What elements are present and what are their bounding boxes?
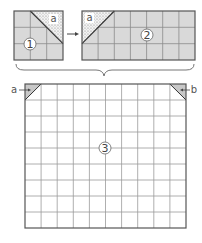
piece-2-label-a: a — [86, 12, 92, 23]
piece-3: a b 3 — [11, 84, 197, 228]
corner-label-a: a — [11, 84, 17, 95]
curly-brace — [16, 64, 194, 76]
piece-1-label-a: a — [50, 13, 56, 24]
piece-1-number: 1 — [27, 38, 34, 51]
corner-label-b: b — [191, 84, 197, 95]
piece-2: a 2 — [82, 11, 195, 60]
piece-1: a 1 — [14, 11, 63, 60]
piece-3-number: 3 — [102, 142, 109, 155]
diagram-canvas: a 1 a 2 — [0, 0, 202, 243]
piece-2-number: 2 — [144, 29, 151, 42]
arrow-icon — [67, 32, 79, 36]
